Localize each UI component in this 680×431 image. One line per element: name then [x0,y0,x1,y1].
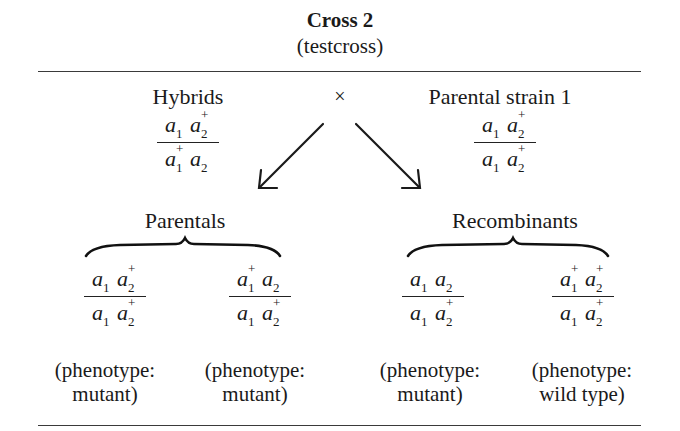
allele: a2 [435,268,456,290]
genotype-fraction-bar [552,296,614,297]
allele: a+2 [585,268,606,290]
arrow-to-recombinants-icon [356,124,419,187]
genotype-top-chromosome: a+1a+2 [528,268,638,290]
allele: a2 [262,268,283,290]
phenotype-line: (phenotype: [507,358,657,382]
genotype-top-chromosome: a+1a2 [205,268,315,290]
phenotype-line: (phenotype: [180,358,330,382]
genotype-bottom-chromosome: a1a+2 [378,302,488,324]
allele: a+1 [560,268,581,290]
allele: a1 [237,302,258,324]
progeny-genotype-recombinant-1: a1a2a1a+2 [378,268,488,324]
phenotype-parental-1: (phenotype: mutant) [30,358,180,406]
allele: a1 [92,268,113,290]
genotype-bottom-chromosome: a1a+2 [60,302,170,324]
allele: a1 [410,268,431,290]
allele: a1 [92,302,113,324]
recombinants-label: Recombinants [430,208,600,234]
phenotype-value: wild type) [507,382,657,406]
genotype-top-chromosome: a1a+2 [60,268,170,290]
allele: a+2 [262,302,283,324]
allele: a1 [560,302,581,324]
phenotype-line: (phenotype: [30,358,180,382]
bottom-divider [38,425,641,426]
genotype-bottom-chromosome: a1a+2 [205,302,315,324]
phenotype-parental-2: (phenotype: mutant) [180,358,330,406]
arrow-to-parentals-icon [260,124,323,187]
progeny-genotype-recombinant-2: a+1a+2a1a+2 [528,268,638,324]
phenotype-recombinant-1: (phenotype: mutant) [355,358,505,406]
genotype-fraction-bar [84,296,146,297]
allele: a+2 [117,302,138,324]
phenotype-value: mutant) [180,382,330,406]
phenotype-recombinant-2: (phenotype: wild type) [507,358,657,406]
allele: a1 [410,302,431,324]
recombinants-brace-icon [408,238,608,256]
genotype-fraction-bar [229,296,291,297]
allele: a+1 [237,268,258,290]
parentals-label: Parentals [120,208,250,234]
phenotype-value: mutant) [355,382,505,406]
progeny-genotype-parental-1: a1a+2a1a+2 [60,268,170,324]
progeny-genotype-parental-2: a+1a2a1a+2 [205,268,315,324]
phenotype-line: (phenotype: [355,358,505,382]
genotype-fraction-bar [402,296,464,297]
allele: a+2 [117,268,138,290]
parentals-brace-icon [86,238,280,256]
allele: a+2 [435,302,456,324]
genotype-top-chromosome: a1a2 [378,268,488,290]
genotype-bottom-chromosome: a1a+2 [528,302,638,324]
allele: a+2 [585,302,606,324]
phenotype-value: mutant) [30,382,180,406]
